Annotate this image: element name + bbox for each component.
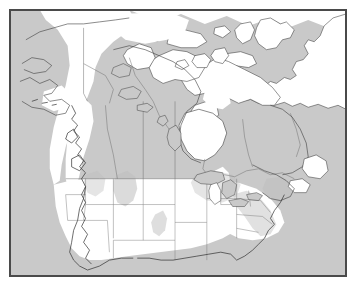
- figure-container: [0, 0, 360, 293]
- map-frame: [9, 9, 347, 277]
- north-america-range-map: [10, 10, 346, 276]
